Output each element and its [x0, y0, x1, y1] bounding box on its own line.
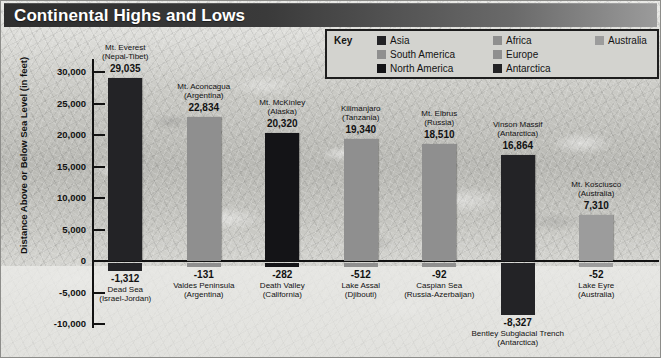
legend-item-label: Europe [506, 49, 538, 60]
y-tick-mark [94, 134, 105, 136]
legend-column-3: Australia [595, 34, 647, 48]
legend-item-europe: Europe [493, 48, 550, 61]
bar-low-europe [422, 263, 456, 267]
bar-low-australia [579, 263, 613, 267]
legend-item-label: Antarctica [506, 63, 550, 74]
y-tick-mark [94, 166, 105, 168]
y-axis-label: Distance Above or Below Sea Level (in fe… [18, 41, 29, 271]
bar-low-name-text: Bentley Subglacial Trench [462, 329, 574, 338]
bar-low-asia [108, 263, 142, 271]
bar-high-name-text: Vinson Massif [466, 120, 570, 129]
bar-high-value: 16,864 [474, 140, 562, 151]
bar-high-region-text: (Antarctica) [466, 129, 570, 138]
y-tick-mark [94, 323, 105, 325]
legend-title: Key [334, 35, 352, 46]
legend-swatch-icon [493, 64, 502, 73]
legend-item-label: Asia [390, 35, 409, 46]
bar-low-name: Lake Eyre(Australia) [540, 281, 652, 299]
legend-item-label: North America [390, 63, 453, 74]
bar-high-region-text: (Australia) [544, 189, 648, 198]
bar-low-name-text: Caspian Sea [383, 281, 495, 290]
bar-high-name-text: Mt. Elbrus [387, 109, 491, 118]
y-tick-label: 0 [30, 255, 86, 266]
bar-low-north-america [265, 263, 299, 267]
bar-high-antarctica [501, 155, 535, 261]
bar-high-south-america [187, 117, 221, 261]
bar-high-value: 7,310 [552, 200, 640, 211]
y-tick-mark [94, 260, 105, 262]
legend-column-2: AfricaEuropeAntarctica [493, 34, 550, 76]
title-header-bar: Continental Highs and Lows [4, 3, 657, 27]
legend-swatch-icon [493, 36, 502, 45]
bar-low-region-text: (Antarctica) [462, 338, 574, 347]
bar-low-value: -52 [546, 269, 646, 280]
y-tick-label: -10,000 [30, 318, 86, 329]
y-tick-label: 20,000 [30, 129, 86, 140]
bar-high-asia [108, 78, 142, 261]
y-tick-mark [94, 197, 105, 199]
bar-low-value: -8,327 [468, 317, 568, 328]
bar-low-name: Bentley Subglacial Trench(Antarctica) [462, 329, 574, 347]
legend-item-asia: Asia [377, 34, 455, 47]
y-tick-mark [94, 103, 105, 105]
bar-low-africa [344, 263, 378, 267]
bar-high-europe [422, 144, 456, 261]
bar-low-value: -92 [389, 269, 489, 280]
y-tick-label: 15,000 [30, 161, 86, 172]
legend-item-south-america: South America [377, 48, 455, 61]
y-tick-label: 5,000 [30, 224, 86, 235]
bar-high-north-america [265, 133, 299, 261]
y-tick-mark [94, 229, 105, 231]
bar-high-name: Mt. Everest(Nepal-Tibet) [73, 43, 177, 61]
legend-box: Key AsiaSouth AmericaNorth America Afric… [325, 29, 659, 79]
legend-swatch-icon [377, 50, 386, 59]
bar-high-name-text: Mt. Aconcagua [152, 82, 256, 91]
bar-high-name-text: Mt. Everest [73, 43, 177, 52]
y-tick-label: 30,000 [30, 66, 86, 77]
legend-column-1: AsiaSouth AmericaNorth America [377, 34, 455, 76]
bar-high-name: Mt. Kosciusco(Australia) [544, 180, 648, 198]
bar-high-africa [344, 139, 378, 261]
bar-high-value: 29,035 [81, 63, 169, 74]
y-tick-label: 10,000 [30, 192, 86, 203]
bar-high-name-text: Mt. Kosciusco [544, 180, 648, 189]
legend-item-africa: Africa [493, 34, 550, 47]
bar-low-name-text: Lake Eyre [540, 281, 652, 290]
legend-item-north-america: North America [377, 62, 455, 75]
bar-high-name: Vinson Massif(Antarctica) [466, 120, 570, 138]
y-tick-label: 25,000 [30, 98, 86, 109]
legend-item-australia: Australia [595, 34, 647, 47]
bar-low-name: Caspian Sea(Russia-Azerbaijan) [383, 281, 495, 299]
legend-swatch-icon [595, 36, 604, 45]
legend-swatch-icon [493, 50, 502, 59]
bar-low-south-america [187, 263, 221, 267]
bar-high-australia [579, 215, 613, 261]
bar-low-region-text: (Australia) [540, 290, 652, 299]
chart-page: Continental Highs and Lows Key AsiaSouth… [0, 0, 661, 358]
bar-high-region-text: (Nepal-Tibet) [73, 52, 177, 61]
bar-low-region-text: (Russia-Azerbaijan) [383, 290, 495, 299]
bar-low-antarctica [501, 263, 535, 315]
legend-swatch-icon [377, 36, 386, 45]
legend-item-label: Africa [506, 35, 532, 46]
legend-item-label: Australia [608, 35, 647, 46]
legend-item-antarctica: Antarctica [493, 62, 550, 75]
legend-item-label: South America [390, 49, 455, 60]
legend-swatch-icon [377, 64, 386, 73]
page-title: Continental Highs and Lows [14, 6, 245, 26]
